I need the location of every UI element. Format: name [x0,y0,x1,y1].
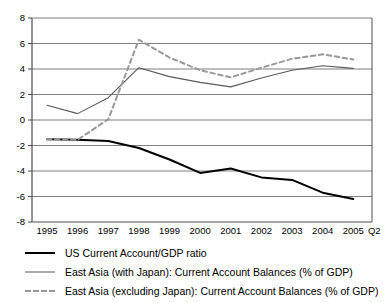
x-axis-tick-label: 1997 [98,225,119,236]
legend-item-east-asia-with-japan[interactable]: East Asia (with Japan): Current Account … [22,262,387,281]
x-axis-tick-label: 2004 [312,225,333,236]
solid-gray-line-swatch [22,266,58,278]
y-axis-tick-label: 2 [20,89,25,100]
x-axis-tick-label: 2001 [220,225,241,236]
y-axis-tick-label: -2 [17,140,25,151]
legend-item-us-current-account[interactable]: US Current Account/GDP ratio [22,243,387,262]
x-axis-tick-label: 1996 [67,225,88,236]
legend-label-east-asia-with-japan: East Asia (with Japan): Current Account … [65,266,353,278]
legend-item-east-asia-excluding-japan[interactable]: East Asia (excluding Japan): Current Acc… [22,281,387,300]
chart-legend: US Current Account/GDP ratio East Asia (… [22,243,387,300]
y-axis-tick-label: -4 [17,165,25,176]
dashed-gray-line-swatch [22,285,58,297]
x-axis-tick-label: 2002 [251,225,272,236]
legend-label-us-current-account: US Current Account/GDP ratio [65,247,207,259]
y-axis-tick-label: -6 [17,191,25,202]
x-axis-tick-labels: 1995199619971998199920002001200220032004… [36,225,380,236]
x-axis-tick-label: 2000 [190,225,211,236]
y-axis-tick-label: 4 [20,63,25,74]
solid-black-line-swatch [22,247,58,259]
y-axis-tick-label: 8 [20,12,25,23]
x-axis-tick-label: 1995 [36,225,57,236]
x-axis-tick-label: 2003 [281,225,302,236]
x-axis-tick-label: 2005 [343,225,364,236]
chart-figure: 86420-2-4-6-8 19951996199719981999200020… [0,0,387,303]
legend-label-east-asia-excluding-japan: East Asia (excluding Japan): Current Acc… [65,285,378,297]
x-axis-tick-label-q2: Q2 [368,225,381,236]
y-axis-tick-label: -8 [17,216,25,227]
x-axis-tick-label: 1998 [128,225,149,236]
x-axis-tick-label: 1999 [159,225,180,236]
y-axis-tick-label: 0 [20,114,25,125]
y-axis-tick-labels: 86420-2-4-6-8 [17,12,32,227]
y-axis-tick-label: 6 [20,38,25,49]
